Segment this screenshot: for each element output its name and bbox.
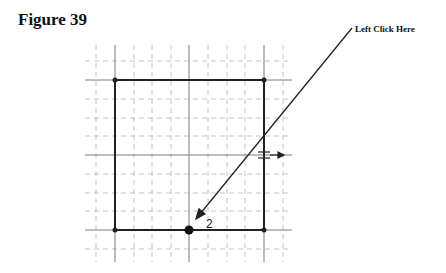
vertex-dot (262, 228, 267, 233)
vertex-dot (113, 228, 118, 233)
cad-drawing: 2 (0, 0, 446, 273)
point-label: 2 (206, 217, 213, 231)
vertex-dot (113, 78, 118, 83)
vertex-dot (262, 78, 267, 83)
arrow-icon (196, 28, 352, 219)
click-point[interactable] (185, 226, 194, 235)
